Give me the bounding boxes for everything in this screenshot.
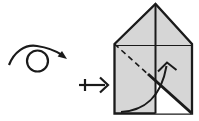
turn-over-arrow-arc bbox=[9, 46, 62, 65]
origami-diagram-canvas bbox=[0, 0, 199, 121]
turn-over-circle bbox=[27, 51, 48, 72]
maps-to-arrow-icon bbox=[79, 78, 108, 93]
turn-over-icon bbox=[9, 46, 67, 72]
origami-step-diagram bbox=[0, 0, 199, 121]
origami-figure bbox=[115, 4, 193, 114]
